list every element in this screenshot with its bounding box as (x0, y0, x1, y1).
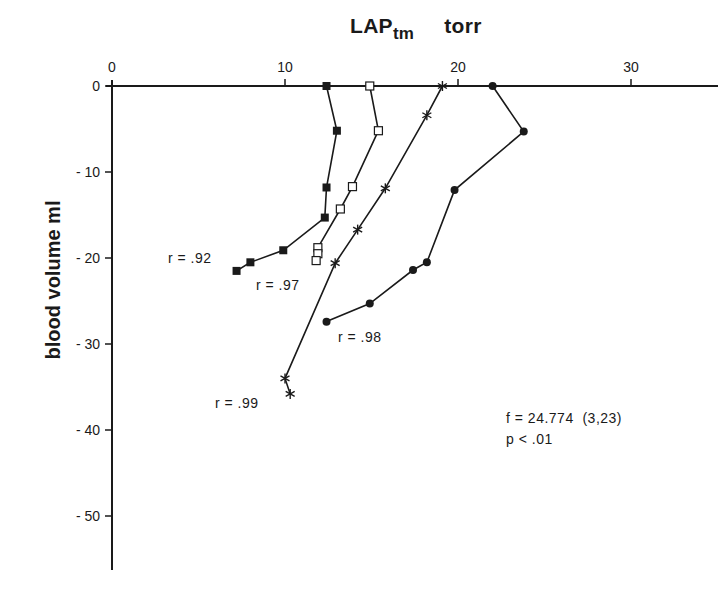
r-label-asterisks: r = .99 (215, 395, 259, 411)
filled-square-marker (321, 214, 329, 222)
f-statistic: f = 24.774 (3,23) (506, 408, 622, 429)
filled-square-marker (323, 183, 331, 191)
series-filled-squares (233, 82, 341, 275)
y-tick-label: - 20 (76, 250, 100, 266)
r-label-filled-squares: r = .92 (168, 250, 212, 266)
filled-square-marker (279, 246, 287, 254)
filled-square-marker (323, 82, 331, 90)
filled-circle-marker (451, 186, 459, 194)
x-tick-label: 20 (450, 59, 466, 75)
open-square-marker (312, 257, 320, 265)
series-line (327, 86, 524, 322)
asterisk-marker (286, 389, 295, 399)
plot-area: 01020300- 10- 20- 30- 40- 50 (0, 0, 727, 595)
filled-circle-marker (409, 266, 417, 274)
filled-circle-marker (423, 258, 431, 266)
x-tick-label: 10 (277, 59, 293, 75)
y-tick-label: - 40 (76, 422, 100, 438)
filled-circle-marker (323, 318, 331, 326)
y-tick-label: 0 (92, 78, 100, 94)
r-label-circles: r = .98 (338, 329, 382, 345)
series-group (233, 81, 528, 399)
r-label-open-squares: r = .97 (256, 277, 300, 293)
asterisk-marker (422, 110, 431, 120)
axes: 01020300- 10- 20- 30- 40- 50 (76, 59, 718, 570)
y-tick-label: - 50 (76, 508, 100, 524)
series-asterisks (281, 81, 447, 399)
open-square-marker (374, 127, 382, 135)
open-square-marker (348, 183, 356, 191)
series-open-squares (312, 82, 382, 265)
x-tick-label: 30 (623, 59, 639, 75)
statistics-annotation: f = 24.774 (3,23) p < .01 (506, 408, 622, 450)
y-tick-label: - 30 (76, 336, 100, 352)
filled-circle-marker (520, 128, 528, 136)
filled-square-marker (233, 267, 241, 275)
p-value: p < .01 (506, 429, 622, 450)
series-line (316, 86, 378, 261)
open-square-marker (336, 205, 344, 213)
open-square-marker (366, 82, 374, 90)
x-tick-label: 0 (108, 59, 116, 75)
filled-circle-marker (366, 300, 374, 308)
asterisk-marker (281, 373, 290, 383)
filled-square-marker (246, 258, 254, 266)
filled-circle-marker (489, 82, 497, 90)
y-tick-label: - 10 (76, 164, 100, 180)
series-line (285, 86, 442, 394)
filled-square-marker (333, 127, 341, 135)
